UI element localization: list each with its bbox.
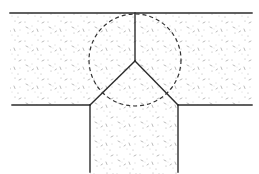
concrete-fill xyxy=(10,13,252,174)
t-junction-diagram xyxy=(0,0,259,174)
